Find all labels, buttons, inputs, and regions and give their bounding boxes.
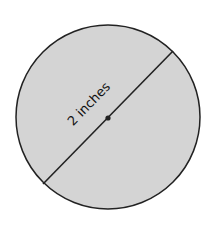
center-point (105, 115, 110, 120)
circle-diagram: 2 inches (0, 0, 213, 225)
